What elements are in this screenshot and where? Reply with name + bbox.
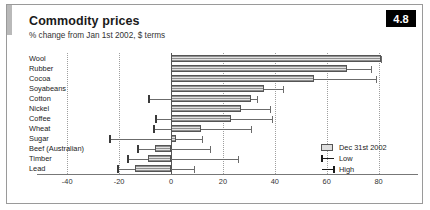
category-label: Rubber xyxy=(29,64,53,73)
legend-item-high: High xyxy=(319,165,414,175)
high-cap xyxy=(381,56,382,63)
legend-bar-label: Dec 31st 2002 xyxy=(339,143,387,152)
x-axis-tick-label: 40 xyxy=(260,177,290,186)
low-cap xyxy=(117,165,119,173)
x-axis-tick-label: -40 xyxy=(52,177,82,186)
category-label: Soyabeans xyxy=(29,84,66,93)
legend-low-line-icon xyxy=(321,158,334,159)
range-whisker xyxy=(127,159,239,160)
bar xyxy=(171,125,201,132)
category-label: Wheat xyxy=(29,124,50,133)
legend-bar-swatch xyxy=(321,144,333,151)
category-label: Timber xyxy=(29,154,52,163)
high-cap xyxy=(202,136,203,143)
bar xyxy=(171,135,176,142)
high-cap xyxy=(210,146,211,153)
low-cap xyxy=(109,135,111,143)
category-label: Lead xyxy=(29,164,45,173)
low-cap xyxy=(137,145,139,153)
category-label: Beef (Australian) xyxy=(29,144,84,153)
high-cap xyxy=(257,96,258,103)
category-label: Nickel xyxy=(29,104,49,113)
range-whisker xyxy=(153,129,252,130)
legend-item-low: Low xyxy=(319,154,414,164)
x-axis-tick-label: 0 xyxy=(156,177,186,186)
low-cap xyxy=(127,155,129,163)
legend-high-cap-icon xyxy=(333,166,335,173)
high-cap xyxy=(251,126,252,133)
legend-low-label: Low xyxy=(339,154,353,163)
range-whisker xyxy=(109,139,202,140)
bar xyxy=(171,105,241,112)
category-label: Cocoa xyxy=(29,74,50,83)
bar xyxy=(171,65,347,72)
bar xyxy=(171,55,381,62)
chart-legend: Dec 31st 2002 Low High xyxy=(319,143,414,176)
gridline xyxy=(119,53,120,174)
bar xyxy=(155,145,171,152)
high-cap xyxy=(238,156,239,163)
x-axis-tick-label: -20 xyxy=(104,177,134,186)
gridline xyxy=(67,53,68,174)
bar xyxy=(171,75,314,82)
bar xyxy=(148,155,171,162)
bar xyxy=(135,165,171,172)
chart-frame: Commodity prices % change from Jan 1st 2… xyxy=(6,4,423,204)
legend-item-bar: Dec 31st 2002 xyxy=(319,143,414,153)
legend-high-label: High xyxy=(339,165,354,174)
high-cap xyxy=(371,66,372,73)
category-label: Cotton xyxy=(29,94,51,103)
x-axis-tick-label: 80 xyxy=(364,177,394,186)
x-axis-tick-label: 60 xyxy=(312,177,342,186)
high-cap xyxy=(194,166,195,173)
x-axis-tick-label: 20 xyxy=(208,177,238,186)
range-whisker xyxy=(137,149,210,150)
category-label: Wool xyxy=(29,54,46,63)
low-cap xyxy=(155,115,157,123)
high-cap xyxy=(272,116,273,123)
bar xyxy=(171,95,251,102)
high-cap xyxy=(376,76,377,83)
high-cap xyxy=(270,106,271,113)
bar xyxy=(171,115,231,122)
category-label: Coffee xyxy=(29,114,51,123)
low-cap xyxy=(153,125,155,133)
category-label: Sugar xyxy=(29,134,49,143)
high-cap xyxy=(283,86,284,93)
low-cap xyxy=(148,95,150,103)
bar xyxy=(171,85,264,92)
